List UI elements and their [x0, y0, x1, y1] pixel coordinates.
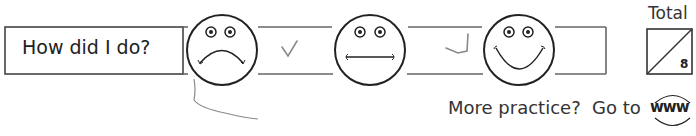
self-assessment-prompt: How did I do? [22, 36, 150, 58]
more-practice-text: More practice? Go to [448, 97, 641, 118]
neutral-face-icon[interactable] [335, 15, 405, 85]
www-link-icon[interactable]: www [650, 98, 689, 116]
sad-face-icon[interactable] [187, 15, 257, 85]
total-label: Total [648, 3, 688, 23]
checkmark-icon [282, 41, 297, 56]
globe-bottom-arc [655, 118, 690, 126]
checkmark-icon [446, 34, 468, 53]
happy-face-icon[interactable] [484, 15, 554, 85]
total-max-score: 8 [680, 57, 688, 71]
